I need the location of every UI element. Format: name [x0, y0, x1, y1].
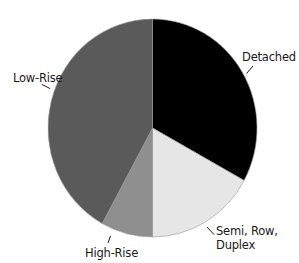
pie-slices: [48, 19, 257, 237]
leader-line-high-rise: [108, 236, 111, 243]
slice-label-high-rise: High-Rise: [85, 246, 138, 260]
slice-label-semi-line1: Semi, Row,: [216, 224, 278, 238]
slice-label-low-rise: Low-Rise: [13, 71, 62, 85]
slice-label-semi-row-duplex: Semi, Row, Duplex: [216, 224, 278, 252]
leader-line-low-rise: [42, 85, 50, 89]
slice-label-semi-line2: Duplex: [216, 238, 278, 252]
slice-label-detached: Detached: [242, 50, 296, 64]
leader-line-semi: [207, 227, 214, 235]
leader-line-detached: [247, 66, 254, 74]
